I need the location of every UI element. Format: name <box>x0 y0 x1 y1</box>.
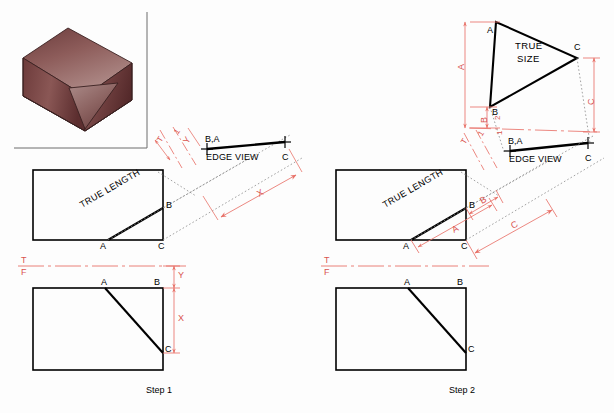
step1-front-dim-x-label: X <box>178 313 184 323</box>
isometric-solid <box>23 28 132 131</box>
step2-topview-vertex-c: C <box>461 241 468 251</box>
step1-edge-view-end-c: C <box>282 152 289 162</box>
step2-edge-view-label: EDGE VIEW <box>509 154 562 164</box>
step2-truesize-dim-a-label: A <box>456 64 466 70</box>
step1-top-view <box>33 170 163 240</box>
step1-fold-f-label: F <box>21 267 27 277</box>
step2-projection-lines <box>411 136 604 240</box>
step2-top-view <box>336 170 466 240</box>
step2-fold-1-label: 1 <box>495 131 504 135</box>
step2-topview-vertex-b: B <box>469 200 475 210</box>
step1-topview-vertex-c: C <box>158 241 165 251</box>
step2-caption: Step 2 <box>449 385 475 395</box>
step1-topview-vertex-b: B <box>166 200 172 210</box>
step2-true-size-label-line1: TRUE <box>515 40 542 51</box>
step2-front-view <box>336 288 466 370</box>
step1-fold-t-label: T <box>21 255 27 265</box>
technical-drawing-figure: A B C TRUE LENGTH B,A EDGE VIEW C T 1 Y … <box>0 0 614 413</box>
step1-topview-vertex-a: A <box>100 241 106 251</box>
step1-edge-view-end-ba: B,A <box>205 134 220 144</box>
step2-fold-2-label: 2 <box>493 116 502 120</box>
step2-truesize-vertex-a: A <box>487 25 493 35</box>
step1-frontview-vertex-b: B <box>154 277 160 287</box>
step2-frontview-vertex-a: A <box>404 277 410 287</box>
step2-truesize-dim-b-label: B <box>479 117 489 123</box>
step1-frontview-vertex-a: A <box>101 277 107 287</box>
step2-fold-t-label: T <box>324 255 330 265</box>
step2-topview-vertex-a: A <box>403 241 409 251</box>
step1-front-dim-y-label: Y <box>178 270 184 280</box>
step1-front-view <box>33 288 163 370</box>
step1-frontview-vertex-c: C <box>165 344 172 354</box>
step2-true-size-label-line2: SIZE <box>517 53 540 64</box>
step1-caption: Step 1 <box>146 385 172 395</box>
step2-truesize-projections <box>490 58 590 152</box>
step1-edge-view-label: EDGE VIEW <box>206 152 259 162</box>
step2-frontview-vertex-b: B <box>457 277 463 287</box>
step2-truesize-vertex-c: C <box>574 42 581 52</box>
step2-edge-view-end-c: C <box>585 153 592 163</box>
step2-frontview-vertex-c: C <box>468 344 475 354</box>
step2-true-size-view <box>490 22 577 107</box>
step2-truesize-dim-c-label: C <box>586 99 596 106</box>
step2-edge-view-end-ba: B,A <box>508 136 523 146</box>
step2-fold-f-label: F <box>324 267 330 277</box>
